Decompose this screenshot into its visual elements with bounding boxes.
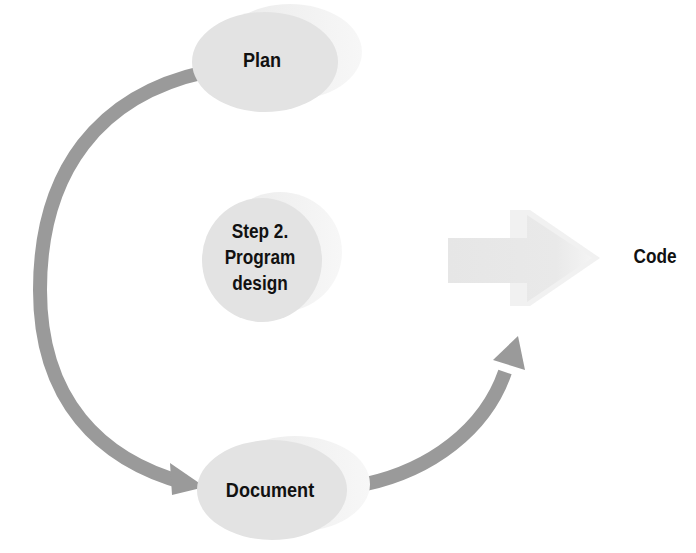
node-code-label: Code (629, 244, 681, 268)
label-line: Step 2. (213, 218, 308, 244)
node-document-label: Document (214, 478, 326, 502)
node-plan-label: Plan (219, 48, 305, 72)
curved-arrow-plan-to-document (40, 72, 205, 495)
label-line: design (213, 270, 308, 296)
diagram-canvas (0, 0, 696, 553)
block-arrow-to-code (448, 210, 600, 306)
label-line: Program (213, 244, 308, 270)
curved-arrow-document-to-code (366, 336, 525, 484)
node-program-design-label: Step 2. Program design (213, 218, 308, 296)
arrowhead-icon (493, 336, 525, 370)
